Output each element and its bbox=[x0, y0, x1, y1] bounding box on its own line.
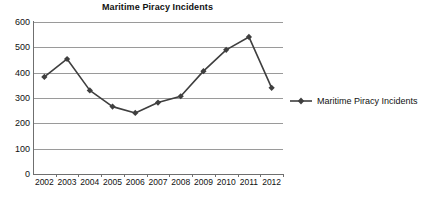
x-axis-tick-label: 2007 bbox=[149, 177, 168, 187]
x-axis-tick-mark bbox=[283, 174, 284, 177]
x-axis-tick-mark bbox=[78, 174, 79, 177]
data-point-marker bbox=[246, 34, 252, 40]
x-axis-tick-mark bbox=[147, 174, 148, 177]
x-axis-tick-mark bbox=[260, 174, 261, 177]
x-axis-tick-mark bbox=[101, 174, 102, 177]
line-series-layer bbox=[33, 22, 283, 174]
x-axis-tick-label: 2011 bbox=[240, 177, 258, 187]
chart-legend: Maritime Piracy Incidents bbox=[289, 96, 418, 106]
x-axis-tick-mark bbox=[56, 174, 57, 177]
y-axis-tick-label: 600 bbox=[4, 17, 30, 27]
x-axis-tick-label: 2006 bbox=[126, 177, 145, 187]
legend-entry-label: Maritime Piracy Incidents bbox=[317, 96, 418, 106]
x-axis-tick-labels: 2002200320042005200620072008200920102011… bbox=[33, 177, 283, 191]
data-point-marker bbox=[132, 110, 138, 116]
x-axis-tick-label: 2005 bbox=[103, 177, 122, 187]
x-axis-tick-mark bbox=[238, 174, 239, 177]
x-axis-tick-label: 2008 bbox=[171, 177, 190, 187]
x-axis-tick-mark bbox=[215, 174, 216, 177]
x-axis-tick-label: 2009 bbox=[194, 177, 213, 187]
chart-container: Maritime Piracy Incidents 01002003004005… bbox=[0, 0, 441, 203]
y-axis-tick-label: 0 bbox=[4, 169, 30, 179]
x-axis-tick-label: 2010 bbox=[217, 177, 236, 187]
x-axis-tick-label: 2003 bbox=[58, 177, 77, 187]
x-axis-tick-label: 2002 bbox=[35, 177, 54, 187]
x-axis-tick-mark bbox=[124, 174, 125, 177]
y-axis-tick-label: 200 bbox=[4, 118, 30, 128]
legend-line-marker-icon bbox=[289, 96, 313, 106]
x-axis-tick-label: 2012 bbox=[262, 177, 281, 187]
y-axis-tick-labels: 0100200300400500600 bbox=[0, 0, 30, 203]
x-axis-tick-mark bbox=[192, 174, 193, 177]
x-axis-line bbox=[33, 174, 284, 175]
y-axis-tick-label: 500 bbox=[4, 42, 30, 52]
y-axis-tick-label: 100 bbox=[4, 144, 30, 154]
data-point-marker bbox=[155, 99, 161, 105]
data-point-marker bbox=[269, 85, 275, 91]
x-axis-tick-mark bbox=[169, 174, 170, 177]
y-axis-tick-label: 400 bbox=[4, 68, 30, 78]
chart-title: Maritime Piracy Incidents bbox=[30, 2, 285, 12]
x-axis-tick-label: 2004 bbox=[80, 177, 99, 187]
y-axis-tick-label: 300 bbox=[4, 93, 30, 103]
